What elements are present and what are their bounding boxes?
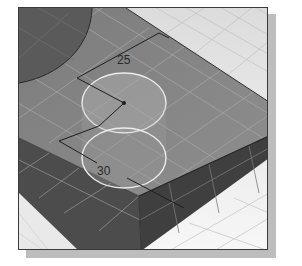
dimension-25-label[interactable]: 25	[117, 53, 131, 67]
scene-canvas: 25 30	[19, 8, 268, 250]
frame-shadow-bottom	[26, 250, 276, 258]
dimension-30-label[interactable]: 30	[97, 164, 111, 178]
cad-viewport[interactable]: 25 30	[18, 7, 268, 250]
frame-shadow-right	[268, 14, 276, 258]
